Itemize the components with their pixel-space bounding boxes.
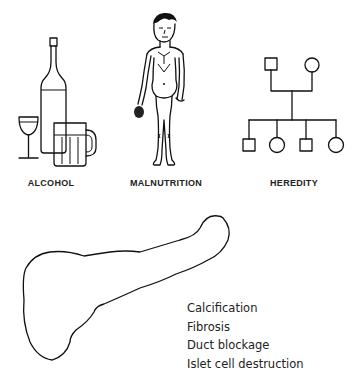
malnourished-man-icon: [120, 0, 210, 180]
alcohol-icon: [0, 0, 120, 180]
effect-item: Duct blockage: [187, 336, 304, 355]
effect-item: Calcification: [187, 299, 304, 318]
effects-list: Calcification Fibrosis Duct blockage Isl…: [187, 299, 304, 373]
pedigree-chart-icon: [240, 50, 357, 160]
effect-item: Islet cell destruction: [187, 355, 304, 374]
cause-label-alcohol: ALCOHOL: [20, 178, 82, 188]
cause-label-heredity: HEREDITY: [264, 178, 324, 188]
cause-label-malnutrition: MALNUTRITION: [121, 178, 211, 188]
effect-item: Fibrosis: [187, 318, 304, 337]
